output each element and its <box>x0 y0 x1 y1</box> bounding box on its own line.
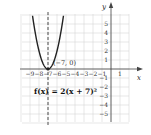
x-tick-label: −4 <box>71 70 80 77</box>
parabola-graph: −9−8−7−6−5−4−3−2−11−5−4−3−2−112345 (−7, … <box>0 0 151 135</box>
tick-labels: −9−8−7−6−5−4−3−2−11−5−4−3−2−112345 <box>26 20 122 117</box>
x-tick-label: −9 <box>26 70 35 77</box>
x-tick-label: −3 <box>80 70 89 77</box>
grid <box>21 14 129 123</box>
x-axis-arrow-icon <box>137 67 143 71</box>
axes <box>20 2 143 122</box>
y-tick-label: −4 <box>99 101 108 108</box>
y-tick-label: −2 <box>99 83 108 90</box>
y-axis-arrow-icon <box>109 2 113 8</box>
vertex-point <box>46 67 49 70</box>
x-tick-label: 1 <box>118 70 122 77</box>
y-tick-label: 1 <box>104 56 108 63</box>
x-tick-label: −5 <box>62 70 71 77</box>
y-axis-label: y <box>101 3 107 11</box>
x-axis-label: x <box>137 74 141 82</box>
x-tick-label: −2 <box>89 70 98 77</box>
y-tick-label: 5 <box>104 20 108 27</box>
y-tick-label: 4 <box>104 29 108 36</box>
y-tick-label: −1 <box>99 74 108 81</box>
function-equation: f(x) = 2(x + 7)² <box>34 87 97 96</box>
y-tick-label: 3 <box>104 38 108 45</box>
x-tick-label: −6 <box>53 70 62 77</box>
x-tick-label: −8 <box>35 70 44 77</box>
y-tick-label: −3 <box>99 92 108 99</box>
y-tick-label: −5 <box>99 110 108 117</box>
vertex-label: (−7, 0) <box>53 59 76 67</box>
y-tick-label: 2 <box>104 47 108 54</box>
